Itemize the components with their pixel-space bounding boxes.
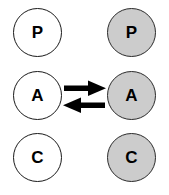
node-a-left[interactable]: A bbox=[13, 71, 62, 120]
node-a-left-label: A bbox=[31, 87, 43, 104]
node-c-left[interactable]: C bbox=[13, 133, 62, 182]
node-p-left[interactable]: P bbox=[13, 8, 62, 57]
node-p-right-label: P bbox=[126, 24, 137, 41]
node-a-right-label: A bbox=[125, 87, 137, 104]
node-a-right[interactable]: A bbox=[107, 71, 156, 120]
arrow-right-to-left-icon bbox=[63, 98, 105, 114]
node-p-right[interactable]: P bbox=[107, 8, 156, 57]
diagram-canvas: P P A A C C bbox=[0, 0, 169, 195]
node-c-right-label: C bbox=[125, 149, 137, 166]
node-c-right[interactable]: C bbox=[107, 133, 156, 182]
arrow-left-to-right-icon bbox=[64, 81, 106, 97]
node-c-left-label: C bbox=[31, 149, 43, 166]
node-p-left-label: P bbox=[32, 24, 43, 41]
